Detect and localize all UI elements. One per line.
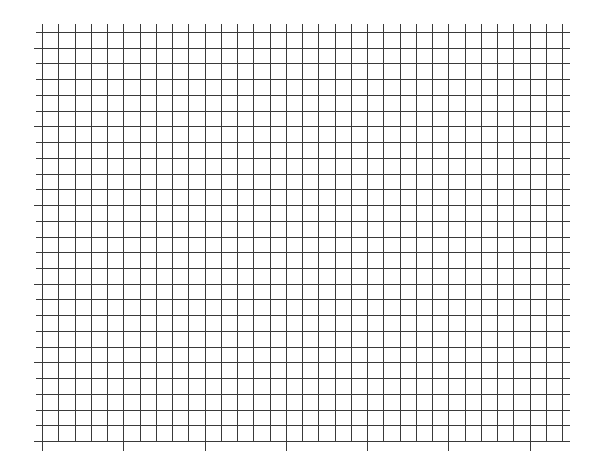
y-axis-ticks xyxy=(34,49,42,442)
grid-chart xyxy=(0,0,603,475)
x-axis-ticks xyxy=(43,441,531,451)
